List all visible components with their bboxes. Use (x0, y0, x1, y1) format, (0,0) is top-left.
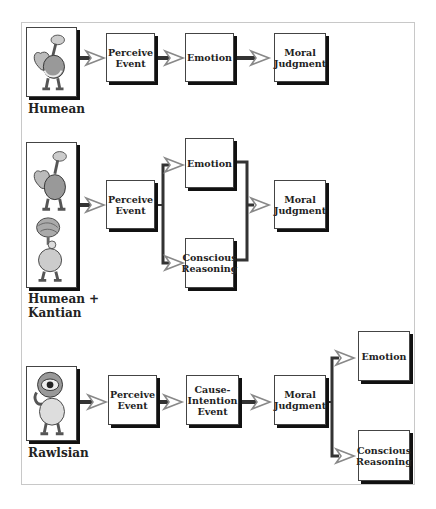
humean-kantian-figure (26, 142, 77, 288)
heart-creature-icon (27, 28, 76, 96)
hk-conscious-reasoning-node: Conscious Reasoning (185, 238, 234, 288)
humean-perceive-event-node: Perceive Event (106, 33, 155, 82)
rawlsian-label: Rawlsian (28, 446, 89, 460)
brain-creature-icon (37, 218, 62, 280)
hk-moral-judgment-node: Moral Judgment (274, 180, 326, 229)
rawlsian-conscious-reasoning-node: Conscious Reasoning (358, 430, 410, 481)
heart-creature-icon (34, 152, 66, 210)
label-line-2: Kantian (28, 306, 99, 320)
node-label: Emotion (187, 158, 232, 169)
rawlsian-moral-judgment-node: Moral Judgment (274, 375, 326, 425)
node-label: Emotion (187, 52, 232, 63)
humean-figure (26, 27, 77, 97)
humean-emotion-node: Emotion (185, 33, 234, 82)
humean-label: Humean (28, 102, 85, 116)
rawlsian-perceive-event-node: Perceive Event (108, 375, 157, 425)
node-label: Conscious Reasoning (182, 252, 238, 274)
label-line-1: Humean + (28, 292, 99, 306)
node-label: Perceive Event (110, 389, 155, 411)
rawlsian-emotion-node: Emotion (358, 331, 410, 381)
humean-kantian-label: Humean + Kantian (28, 292, 99, 320)
node-label: Moral Judgment (274, 194, 326, 216)
hk-perceive-event-node: Perceive Event (106, 180, 155, 229)
node-label: Conscious Reasoning (356, 445, 412, 467)
node-label: Moral Judgment (274, 389, 326, 411)
rawlsian-figure (26, 366, 77, 441)
eye-creature-icon (27, 367, 76, 440)
node-label: Emotion (362, 351, 407, 362)
node-label: Cause- Intention Event (188, 384, 238, 417)
humean-moral-judgment-node: Moral Judgment (274, 33, 326, 82)
hk-emotion-node: Emotion (185, 138, 234, 188)
node-label: Perceive Event (108, 194, 153, 216)
node-label: Moral Judgment (274, 47, 326, 69)
node-label: Perceive Event (108, 47, 153, 69)
rawlsian-cause-intention-event-node: Cause- Intention Event (186, 375, 239, 425)
